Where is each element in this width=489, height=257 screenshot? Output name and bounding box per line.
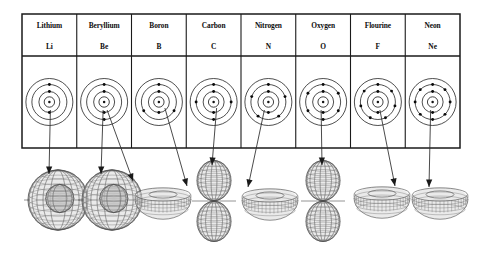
nucleus-dot xyxy=(103,101,106,104)
electron-dot xyxy=(322,83,325,86)
electron-dot xyxy=(103,90,106,93)
element-column: CarbonC xyxy=(190,21,237,126)
electron-dot xyxy=(157,83,160,86)
element-name: Flourine xyxy=(365,21,392,30)
electron-dot xyxy=(449,101,452,104)
electron-dot xyxy=(157,90,160,93)
orbital-dumbbell xyxy=(192,161,236,242)
bohr-atom-diagram xyxy=(300,79,347,126)
electron-dot xyxy=(307,92,310,95)
electron-dot xyxy=(384,116,387,119)
element-column: BoronB xyxy=(135,21,182,126)
figure-canvas: LithiumLiBerylliumBeBoronBCarbonCNitroge… xyxy=(0,0,489,257)
element-name: Boron xyxy=(149,21,168,30)
dumbbell-lobe-lower xyxy=(306,201,340,241)
electron-dot xyxy=(195,101,198,104)
orbital-torus xyxy=(135,187,191,219)
orbital-torus xyxy=(354,186,410,218)
bohr-atom-diagram xyxy=(26,79,73,126)
bohr-atom-diagram xyxy=(245,79,292,126)
electron-dot xyxy=(359,104,362,107)
electron-dot xyxy=(103,83,106,86)
pointer-arrowhead xyxy=(391,178,397,186)
nucleus-dot xyxy=(158,101,161,104)
electron-dot xyxy=(250,95,253,98)
electron-dot xyxy=(390,90,393,93)
element-symbol: O xyxy=(320,42,326,51)
electron-dot xyxy=(414,101,417,104)
electron-dot xyxy=(393,104,396,107)
element-name: Neon xyxy=(425,21,441,30)
element-symbol: Li xyxy=(46,42,53,51)
electron-dot xyxy=(48,90,51,93)
element-symbol: C xyxy=(211,42,216,51)
electron-dot xyxy=(337,92,340,95)
electron-dot xyxy=(257,115,260,118)
element-column: NitrogenN xyxy=(245,21,292,126)
bohr-atom-diagram xyxy=(135,79,182,126)
element-name: Nitrogen xyxy=(255,21,282,30)
electron-dot xyxy=(212,83,215,86)
pointer-line xyxy=(321,110,322,165)
element-symbol: B xyxy=(156,42,161,51)
electron-dot xyxy=(419,88,422,91)
pointer-arrowhead xyxy=(247,179,253,187)
element-symbol: Ne xyxy=(428,42,437,51)
nucleus-dot xyxy=(377,101,380,104)
electron-dot xyxy=(212,118,215,121)
pointer-line xyxy=(165,108,187,186)
element-column: OxygenO xyxy=(300,21,347,126)
element-column: NeonNe xyxy=(409,21,456,126)
orbital-shapes-row xyxy=(24,161,468,242)
nucleus-dot xyxy=(212,101,215,104)
orbital-torus xyxy=(242,188,298,220)
electron-dot xyxy=(431,83,434,86)
element-name: Oxygen xyxy=(311,21,335,30)
electron-dot xyxy=(322,90,325,93)
dumbbell-lobe-upper xyxy=(197,161,231,201)
electron-dot xyxy=(307,109,310,112)
electron-dot xyxy=(322,111,325,114)
electron-dot xyxy=(369,116,372,119)
element-symbol: F xyxy=(376,42,381,51)
electron-dot xyxy=(267,90,270,93)
electron-dot xyxy=(48,83,51,86)
element-name: Carbon xyxy=(202,21,226,30)
bohr-atom-diagram xyxy=(354,79,401,126)
electron-dot xyxy=(267,83,270,86)
nucleus-dot xyxy=(431,101,434,104)
electron-dot xyxy=(173,109,176,112)
bohr-atom-diagram xyxy=(409,79,456,126)
electron-dot xyxy=(277,115,280,118)
electron-dot xyxy=(363,90,366,93)
electron-dot xyxy=(267,111,270,114)
electron-dot xyxy=(157,111,160,114)
electron-dot xyxy=(212,111,215,114)
electron-dot xyxy=(444,88,447,91)
electron-dot xyxy=(376,111,379,114)
nucleus-dot xyxy=(267,101,270,104)
element-column: LithiumLi xyxy=(26,21,73,126)
electron-dot xyxy=(142,109,145,112)
electron-dot xyxy=(337,109,340,112)
electron-dot xyxy=(431,111,434,114)
orbital-dumbbell xyxy=(301,161,345,242)
electron-dot xyxy=(419,113,422,116)
element-name: Lithium xyxy=(37,21,63,30)
element-symbol: Be xyxy=(100,42,109,51)
pointer-arrowhead xyxy=(182,178,188,186)
nucleus-dot xyxy=(48,101,51,104)
electron-dot xyxy=(444,113,447,116)
electron-dot xyxy=(431,90,434,93)
element-column: FlourineF xyxy=(354,21,401,126)
electron-dot xyxy=(212,90,215,93)
bohr-atom-diagram xyxy=(81,79,128,126)
element-column: BerylliumBe xyxy=(81,21,128,126)
nucleus-dot xyxy=(322,101,325,104)
dumbbell-lobe-upper xyxy=(306,161,340,201)
electron-dot xyxy=(376,90,379,93)
element-table: LithiumLiBerylliumBeBoronBCarbonCNitroge… xyxy=(22,14,460,148)
electron-dot xyxy=(322,118,325,121)
electron-dot xyxy=(284,95,287,98)
pointer-line xyxy=(212,108,217,165)
